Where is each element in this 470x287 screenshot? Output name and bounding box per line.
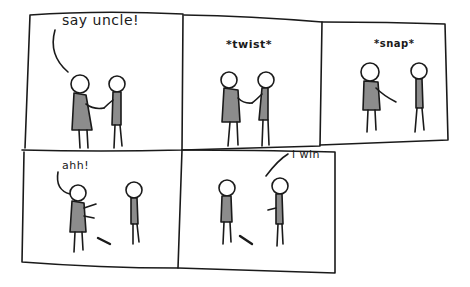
panel-3-sound: *snap* — [374, 38, 414, 49]
panel-5-border — [178, 150, 335, 273]
panel-2-figures — [221, 72, 274, 146]
panel-1-figures — [53, 30, 125, 148]
panel-4-speech: ahh! — [62, 159, 89, 172]
panel-5-speech: i win — [292, 148, 320, 161]
panel-4-border — [22, 150, 182, 268]
panel-1-border — [22, 12, 183, 151]
panel-2-sound: *twist* — [226, 38, 272, 51]
panel-1-speech: say uncle! — [62, 12, 139, 28]
panel-4-figures — [58, 172, 143, 252]
panel-5-figures — [219, 154, 288, 246]
panel-3-figures — [361, 63, 427, 132]
panel-2-border — [183, 15, 322, 150]
